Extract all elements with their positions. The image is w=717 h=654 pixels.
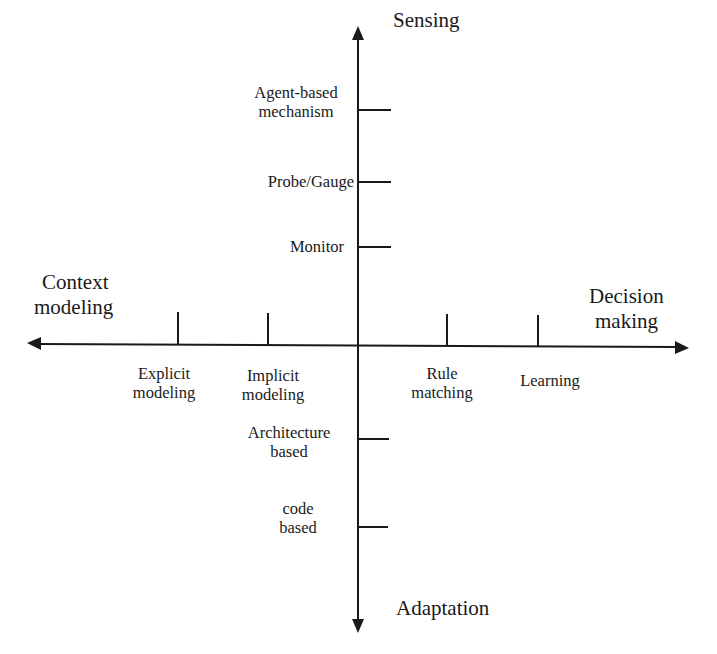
- adaptation-label: Adaptation: [396, 596, 489, 620]
- label-probe-gauge: Probe/Gauge: [232, 172, 354, 191]
- rule-line1: Rule: [397, 364, 487, 383]
- probe-gauge-text: Probe/Gauge: [268, 172, 354, 191]
- monitor-text: Monitor: [290, 237, 344, 256]
- agent-based-line1: Agent-based: [240, 83, 352, 102]
- label-code-based: code based: [256, 499, 340, 538]
- learning-text: Learning: [520, 371, 580, 390]
- decision-label-line2: making: [589, 309, 664, 334]
- label-implicit-modeling: Implicit modeling: [229, 366, 317, 405]
- rule-line2: matching: [397, 383, 487, 402]
- label-agent-based-mechanism: Agent-based mechanism: [240, 83, 352, 122]
- sensing-label: Sensing: [393, 8, 460, 32]
- context-label-line1: Context: [34, 270, 113, 295]
- architecture-line1: Architecture: [233, 423, 345, 442]
- label-explicit-modeling: Explicit modeling: [120, 364, 208, 403]
- explicit-line2: modeling: [120, 383, 208, 402]
- axis-title-sensing: Sensing: [393, 8, 460, 33]
- implicit-line1: Implicit: [229, 366, 317, 385]
- code-line2: based: [256, 518, 340, 537]
- arrow-left-icon: [27, 337, 41, 350]
- explicit-line1: Explicit: [120, 364, 208, 383]
- decision-label-line1: Decision: [589, 284, 664, 309]
- implicit-line2: modeling: [229, 385, 317, 404]
- label-architecture-based: Architecture based: [233, 423, 345, 462]
- label-learning: Learning: [505, 371, 595, 390]
- arrow-up-icon: [352, 26, 364, 40]
- arrow-right-icon: [675, 341, 689, 354]
- label-monitor: Monitor: [232, 237, 344, 256]
- axis-title-context-modeling: Context modeling: [34, 270, 113, 320]
- label-rule-matching: Rule matching: [397, 364, 487, 403]
- axis-title-adaptation: Adaptation: [396, 596, 489, 621]
- axis-title-decision-making: Decision making: [589, 284, 664, 334]
- arrow-down-icon: [352, 619, 364, 633]
- agent-based-line2: mechanism: [240, 102, 352, 121]
- context-label-line2: modeling: [34, 295, 113, 320]
- architecture-line2: based: [233, 442, 345, 461]
- code-line1: code: [256, 499, 340, 518]
